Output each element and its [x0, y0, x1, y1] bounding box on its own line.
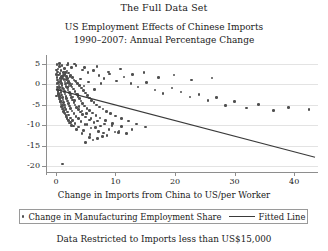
- y-tick-label: -20: [0, 161, 40, 170]
- figure-container: The Full Data Set US Employment Effects …: [0, 0, 328, 251]
- x-tick-label: 30: [220, 177, 250, 186]
- y-tick-mark: [42, 105, 47, 106]
- x-tick-mark: [56, 172, 57, 176]
- chart-title-line2: 1990–2007: Annual Percentage Change: [0, 34, 328, 47]
- dot-marker-icon: [22, 215, 25, 218]
- x-tick-label: 0: [41, 177, 71, 186]
- y-tick-mark: [42, 146, 47, 147]
- legend-item-scatter: Change in Manufacturing Employment Share: [22, 212, 222, 222]
- plot-area: [47, 58, 318, 172]
- y-axis-spine: [46, 55, 47, 175]
- x-tick-mark: [175, 172, 176, 176]
- chart-title-line1: US Employment Effects of Chinese Imports: [65, 22, 263, 32]
- y-tick-mark: [42, 84, 47, 85]
- y-tick-mark: [42, 64, 47, 65]
- figure-top-caption: The Full Data Set: [0, 2, 328, 13]
- x-axis-title: Change in Imports from China to US/per W…: [0, 190, 328, 200]
- fitted-line: [47, 58, 318, 172]
- line-marker-icon: [229, 216, 255, 217]
- x-tick-mark: [235, 172, 236, 176]
- x-tick-mark: [294, 172, 295, 176]
- x-tick-label: 10: [100, 177, 130, 186]
- y-tick-label: 0: [0, 79, 40, 88]
- x-tick-label: 40: [279, 177, 309, 186]
- legend-label-fitted-line: Fitted Line: [259, 212, 306, 222]
- y-tick-label: -5: [0, 100, 40, 109]
- y-tick-label: -15: [0, 141, 40, 150]
- y-tick-label: -10: [0, 120, 40, 129]
- legend-label-scatter: Change in Manufacturing Employment Share: [28, 212, 221, 222]
- legend-item-fitted-line: Fitted Line: [229, 212, 306, 222]
- figure-bottom-caption: Data Restricted to Imports less than US$…: [0, 234, 328, 244]
- chart-title: US Employment Effects of Chinese Imports…: [0, 21, 328, 46]
- x-tick-mark: [115, 172, 116, 176]
- x-tick-label: 20: [160, 177, 190, 186]
- x-axis-spine: [46, 172, 318, 173]
- y-tick-mark: [42, 125, 47, 126]
- y-tick-label: 5: [0, 59, 40, 68]
- chart-legend: Change in Manufacturing Employment Share…: [19, 209, 308, 224]
- y-tick-mark: [42, 166, 47, 167]
